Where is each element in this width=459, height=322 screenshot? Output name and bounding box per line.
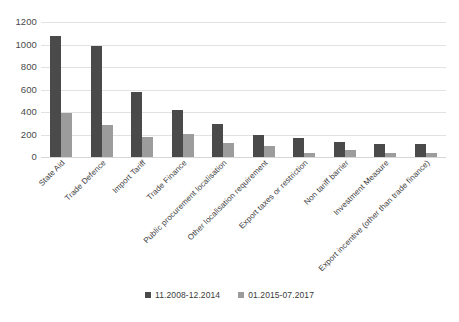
legend-item[interactable]: 11.2008-12.2014: [145, 291, 220, 300]
legend-swatch-icon: [145, 292, 151, 298]
y-axis-tick-label: 1000: [15, 40, 37, 50]
bar-group: [365, 22, 406, 157]
plot-area: [41, 22, 446, 157]
bar-slot: [50, 22, 61, 157]
bar-slot: [183, 22, 194, 157]
x-axis-label-text: Public procurement localisation: [143, 159, 229, 245]
bar-chart: 020040060080010001200 State AidTrade Def…: [0, 0, 459, 322]
bar-group: [82, 22, 123, 157]
x-axis-label-text: Import Tariff: [112, 159, 148, 195]
bar: [172, 110, 183, 157]
bar-slot: [212, 22, 223, 157]
bar-group: [41, 22, 82, 157]
bar-slot: [374, 22, 385, 157]
y-axis-tick-label: 800: [21, 62, 37, 72]
bar: [91, 46, 102, 157]
bar: [334, 142, 345, 157]
bar: [385, 153, 396, 158]
bar: [264, 146, 275, 157]
bar: [223, 143, 234, 157]
bar-slot: [223, 22, 234, 157]
bar: [142, 137, 153, 157]
bar: [293, 138, 304, 157]
y-axis-tick-label: 1200: [15, 17, 37, 27]
legend-label: 01.2015-07.2017: [248, 291, 314, 300]
bar: [61, 113, 72, 157]
bar-slot: [264, 22, 275, 157]
bar-slot: [131, 22, 142, 157]
y-axis-tick-label: 600: [21, 85, 37, 95]
bar-group: [163, 22, 204, 157]
bar-groups: [41, 22, 446, 157]
bar: [415, 144, 426, 157]
bar-slot: [61, 22, 72, 157]
bar-slot: [345, 22, 356, 157]
y-axis-tick-label: 200: [21, 130, 37, 140]
bar: [212, 124, 223, 157]
bar-slot: [334, 22, 345, 157]
bar-slot: [102, 22, 113, 157]
bar-slot: [91, 22, 102, 157]
y-axis-tick-label: 0: [32, 152, 37, 162]
bar-group: [406, 22, 447, 157]
bar: [253, 135, 264, 158]
bar: [50, 36, 61, 158]
bar-group: [122, 22, 163, 157]
bar-group: [203, 22, 244, 157]
bar: [102, 125, 113, 157]
bar: [183, 134, 194, 157]
bar: [426, 153, 437, 157]
bar: [131, 92, 142, 157]
bar-group: [284, 22, 325, 157]
bar-slot: [385, 22, 396, 157]
x-axis-label-text: Other localisation requirement: [186, 159, 269, 242]
bar: [345, 150, 356, 157]
bar-slot: [142, 22, 153, 157]
bar-slot: [426, 22, 437, 157]
bar-slot: [253, 22, 264, 157]
bar-slot: [304, 22, 315, 157]
x-axis-label-text: Export taxes or restriction: [238, 159, 310, 231]
y-axis-tick-label: 400: [21, 107, 37, 117]
legend-label: 11.2008-12.2014: [155, 291, 220, 300]
bar-group: [325, 22, 366, 157]
x-axis-labels: State AidTrade DefenceImport TariffTrade…: [41, 159, 446, 284]
bar-slot: [415, 22, 426, 157]
chart-legend: 11.2008-12.201401.2015-07.2017: [0, 291, 459, 300]
x-axis-label-text: Trade Finance: [146, 159, 189, 202]
bar-slot: [172, 22, 183, 157]
legend-item[interactable]: 01.2015-07.2017: [238, 291, 314, 300]
bar: [374, 144, 385, 157]
x-axis-label-text: State Aid: [38, 159, 67, 188]
bar-group: [244, 22, 285, 157]
y-axis: 020040060080010001200: [0, 22, 37, 157]
x-axis-label-text: Trade Defence: [64, 159, 108, 203]
bar: [304, 153, 315, 158]
bar-slot: [293, 22, 304, 157]
legend-swatch-icon: [238, 292, 244, 298]
